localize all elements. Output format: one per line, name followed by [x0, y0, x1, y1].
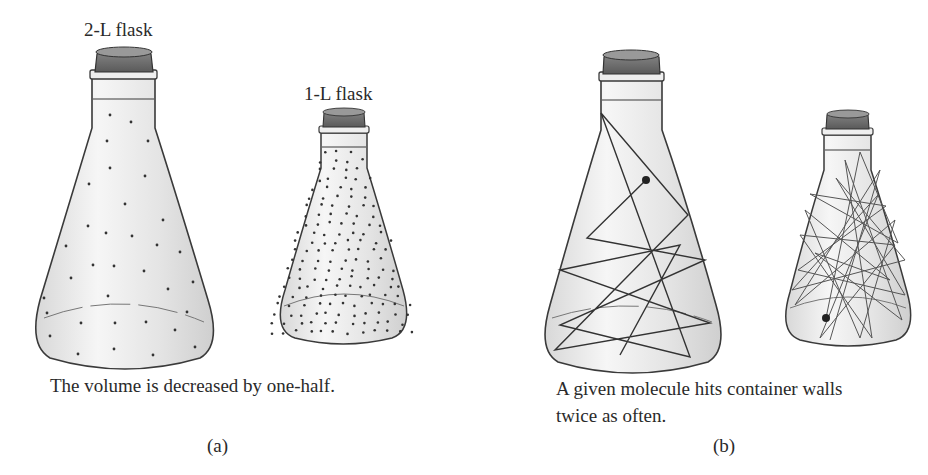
flask-label-2l: 2-L flask [84, 20, 152, 39]
caption-b-line2: twice as often. [556, 402, 666, 429]
flask-label-1l: 1-L flask [304, 84, 372, 103]
flask-1l-a [271, 108, 414, 344]
molecule-icon [642, 176, 650, 184]
flask-2l-b [545, 50, 721, 373]
caption-b-line1: A given molecule hits container walls [556, 375, 843, 402]
molecule-icon [822, 314, 830, 322]
flask-2l-a [36, 47, 214, 369]
flask-1l-b [786, 110, 911, 346]
caption-a: The volume is decreased by one-half. [50, 372, 335, 399]
panel-label-a: (a) [207, 432, 228, 459]
flask-diagram [0, 0, 928, 475]
panel-label-b: (b) [713, 432, 735, 459]
